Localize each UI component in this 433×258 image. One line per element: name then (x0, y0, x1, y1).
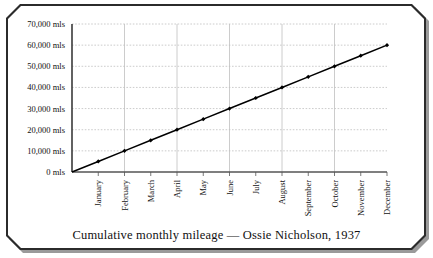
x-tick-label: November (356, 180, 366, 216)
y-tick-label: 40,000 mls (27, 82, 65, 92)
y-tick-labels: 0 mls10,000 mls20,000 mls30,000 mls40,00… (27, 19, 65, 177)
data-point-marker (280, 85, 284, 89)
data-point-marker (385, 43, 389, 47)
x-tick-label: April (172, 179, 182, 198)
y-tick-label: 30,000 mls (27, 104, 65, 114)
x-tick-label: March (146, 179, 156, 202)
x-tick-label: June (225, 180, 235, 196)
figure-caption: Cumulative monthly mileage — Ossie Nicho… (0, 228, 433, 243)
data-point-marker (122, 149, 126, 153)
y-tick-label: 10,000 mls (27, 146, 65, 156)
x-tick-label: February (120, 179, 130, 210)
y-tick-label: 50,000 mls (27, 61, 65, 71)
x-tick-label: August (277, 179, 287, 204)
data-point-marker (332, 64, 336, 68)
y-tick-label: 60,000 mls (27, 40, 65, 50)
data-point-marker (149, 138, 153, 142)
data-point-marker (201, 117, 205, 121)
data-point-marker (175, 128, 179, 132)
data-point-marker (254, 96, 258, 100)
x-tick-label: May (198, 179, 208, 195)
x-tick-label: October (330, 180, 340, 208)
figure-container: 0 mls10,000 mls20,000 mls30,000 mls40,00… (0, 0, 433, 258)
x-tick-label: December (382, 180, 392, 215)
x-tick-label: January (93, 179, 103, 206)
y-tick-label: 20,000 mls (27, 125, 65, 135)
y-tick-label: 70,000 mls (27, 19, 65, 29)
data-point-marker (306, 75, 310, 79)
x-tick-labels: JanuaryFebruaryMarchAprilMayJuneJulyAugu… (93, 179, 392, 216)
data-point-marker (359, 54, 363, 58)
x-tick-label: July (251, 179, 261, 194)
gridlines-group (72, 24, 387, 172)
data-point-marker (227, 106, 231, 110)
y-tick-label: 0 mls (46, 167, 65, 177)
data-point-marker (96, 159, 100, 163)
line-chart: 0 mls10,000 mls20,000 mls30,000 mls40,00… (0, 0, 433, 258)
x-tick-label: September (303, 180, 313, 217)
